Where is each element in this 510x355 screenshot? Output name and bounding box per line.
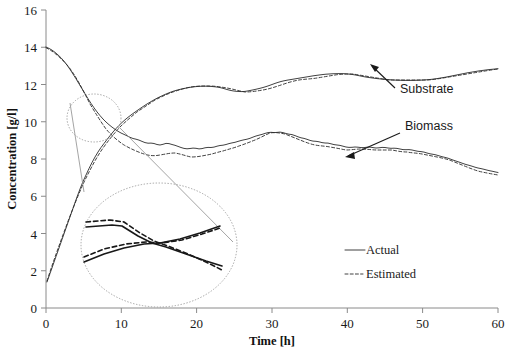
y-tick-label-0: 0 bbox=[31, 301, 38, 316]
x-tick-label-50: 50 bbox=[416, 316, 429, 331]
x-tick-label-20: 20 bbox=[190, 316, 203, 331]
y-tick-label-2: 2 bbox=[31, 264, 38, 279]
substrate-estimated-line bbox=[46, 48, 498, 175]
legend-item-estimated: Estimated bbox=[345, 267, 417, 281]
inset-substrate-estimated bbox=[86, 220, 222, 270]
x-tick-label-40: 40 bbox=[341, 316, 354, 331]
substrate-label: Substrate bbox=[400, 82, 454, 96]
y-tick-label-14: 14 bbox=[24, 40, 38, 55]
y-tick-label-12: 12 bbox=[24, 78, 37, 93]
biomass-label: Biomass bbox=[405, 119, 453, 133]
axes-group: 16 14 12 10 8 6 4 2 0 0 10 20 30 40 50 6… bbox=[5, 3, 505, 348]
biomass-estimated-line bbox=[47, 69, 498, 281]
y-ticks bbox=[41, 10, 46, 308]
y-tick-label-4: 4 bbox=[31, 227, 38, 242]
series-substrate bbox=[46, 47, 498, 175]
legend: Actual Estimated bbox=[345, 243, 417, 281]
legend-item-actual: Actual bbox=[345, 243, 400, 257]
y-axis-title: Concentration [g/l] bbox=[5, 108, 19, 210]
figure-container: 16 14 12 10 8 6 4 2 0 0 10 20 30 40 50 6… bbox=[0, 0, 510, 355]
y-tick-label-6: 6 bbox=[31, 189, 38, 204]
concentration-vs-time-chart: 16 14 12 10 8 6 4 2 0 0 10 20 30 40 50 6… bbox=[0, 0, 510, 355]
annotation-biomass: Biomass bbox=[345, 119, 453, 159]
y-tick-label-8: 8 bbox=[31, 152, 38, 167]
inset-biomass-actual bbox=[84, 226, 220, 262]
x-tick-label-30: 30 bbox=[266, 316, 279, 331]
substrate-actual-line bbox=[46, 47, 498, 173]
legend-label-actual: Actual bbox=[366, 243, 400, 257]
x-ticks bbox=[46, 308, 498, 313]
x-tick-label-0: 0 bbox=[43, 316, 50, 331]
x-axis-title: Time [h] bbox=[249, 334, 295, 348]
biomass-arrowhead bbox=[345, 152, 355, 159]
y-tick-label-10: 10 bbox=[24, 115, 37, 130]
y-tick-label-16: 16 bbox=[24, 3, 38, 18]
x-tick-label-10: 10 bbox=[115, 316, 128, 331]
legend-label-estimated: Estimated bbox=[366, 267, 417, 281]
magnified-inset bbox=[81, 183, 237, 307]
x-tick-label-60: 60 bbox=[492, 316, 505, 331]
